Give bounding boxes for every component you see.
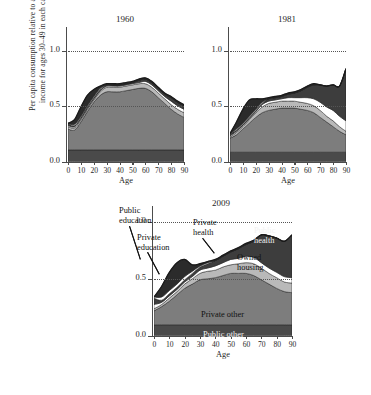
- panel-2009-xtick-50: 50: [224, 340, 238, 349]
- panel-1960-xtickmark-10: [81, 162, 82, 165]
- panel-1981-xtick-20: 20: [249, 166, 263, 175]
- panel-1981-xtick-10: 10: [236, 166, 250, 175]
- panel-1981-xtickmark-20: [256, 162, 257, 165]
- panel-2009-x-axis-title: Age: [154, 350, 292, 359]
- panel-1960-area-chart: [68, 28, 184, 162]
- panel-1960-xtick-20: 20: [87, 166, 101, 175]
- panel-1960-gridline-1.0: [68, 51, 184, 52]
- area-public-other: [230, 152, 346, 161]
- panel-2009-gridline-0.5: [154, 279, 292, 280]
- panel-1960-x-spine: [66, 162, 184, 163]
- area-public-other: [68, 150, 184, 162]
- panel-2009-xtickmark-90: [292, 336, 293, 339]
- panel-1981-xtickmark-80: [333, 162, 334, 165]
- panel-1960-xtickmark-60: [145, 162, 146, 165]
- panel-2009-xtick-30: 30: [194, 340, 208, 349]
- panel-1981-xtickmark-30: [269, 162, 270, 165]
- panel-1981-xtickmark-0: [230, 162, 231, 165]
- panel-1981-xtickmark-60: [307, 162, 308, 165]
- panel-1981: 1981 1.0 0.5 0.0 0 10 20 30 40 50 60 70 …: [222, 14, 352, 189]
- panel-1960-xtickmark-20: [94, 162, 95, 165]
- panel-2009-xtickmark-80: [277, 336, 278, 339]
- panel-1981-xtickmark-70: [320, 162, 321, 165]
- panel-1960-xtick-30: 30: [100, 166, 114, 175]
- panel-1981-xtick-80: 80: [327, 166, 341, 175]
- panel-1981-xtickmark-40: [282, 162, 283, 165]
- panel-1981-gridline-0.5: [230, 106, 346, 107]
- panel-1960-xtickmark-50: [132, 162, 133, 165]
- panel-1960-xtickmark-90: [184, 162, 185, 165]
- panel-1981-xtick-0: 0: [224, 166, 238, 175]
- panel-1981-x-spine: [228, 162, 346, 163]
- panel-1960-x-axis-title: Age: [68, 176, 184, 185]
- panel-1960-xtick-90: 90: [178, 166, 192, 175]
- panel-1960-xtick-10: 10: [74, 166, 88, 175]
- panel-1960-gridline-0.5: [68, 106, 184, 107]
- panel-1960-xtick-0: 0: [62, 166, 76, 175]
- panel-1960-xtickmark-40: [120, 162, 121, 165]
- annotation-public-health: Public health: [254, 226, 275, 245]
- panel-2009-xtickmark-0: [154, 336, 155, 339]
- panel-2009-xtickmark-10: [169, 336, 170, 339]
- panel-1981-x-axis-title: Age: [230, 176, 346, 185]
- panel-2009-gridline-1.0: [154, 222, 292, 223]
- panel-2009-xtick-10: 10: [163, 340, 177, 349]
- panel-2009-xtick-0: 0: [148, 340, 162, 349]
- panel-1960-ytick-0.5: 0.5: [34, 100, 60, 109]
- panel-2009-xtickmark-70: [261, 336, 262, 339]
- panel-1981-xtickmark-50: [294, 162, 295, 165]
- panel-1960-xtickmark-80: [171, 162, 172, 165]
- panel-1981-gridline-1.0: [230, 51, 346, 52]
- panel-2009-xtickmark-30: [200, 336, 201, 339]
- panel-1960-plot: [68, 28, 184, 162]
- annotation-public-education: Public education: [119, 206, 152, 225]
- panel-2009-ytick-0.0: 0.0: [120, 330, 146, 339]
- panel-1960-xtickmark-70: [158, 162, 159, 165]
- panel-1960-title: 1960: [60, 14, 190, 24]
- panel-1981-ytick-1.0: 1.0: [196, 45, 222, 54]
- annotation-public-other: Public other: [203, 330, 244, 340]
- panel-1960-xtick-50: 50: [126, 166, 140, 175]
- annotation-owned-housing: Owned housing: [237, 253, 264, 272]
- panel-1981-title: 1981: [222, 14, 352, 24]
- panel-1981-xtick-30: 30: [262, 166, 276, 175]
- panel-1960-ytick-1.0: 1.0: [34, 45, 60, 54]
- panel-1981-xtick-70: 70: [314, 166, 328, 175]
- panel-2009-ytick-0.5: 0.5: [120, 273, 146, 282]
- panel-1981-xtick-90: 90: [340, 166, 354, 175]
- annotation-private-health: Private health: [193, 218, 217, 237]
- panel-1981-ytick-0.0: 0.0: [196, 156, 222, 165]
- panel-1960-xtick-80: 80: [165, 166, 179, 175]
- panel-2009-xtickmark-60: [246, 336, 247, 339]
- panel-2009-xtick-20: 20: [178, 340, 192, 349]
- panel-1960-ytick-0.0: 0.0: [34, 156, 60, 165]
- panel-1981-xtickmark-90: [346, 162, 347, 165]
- panel-2009-xtickmark-20: [185, 336, 186, 339]
- annotation-private-other: Private other: [201, 310, 244, 320]
- panel-1960-xtick-60: 60: [139, 166, 153, 175]
- panel-1960-xtickmark-0: [68, 162, 69, 165]
- panel-2009-xtick-80: 80: [270, 340, 284, 349]
- panel-1981-ytick-0.5: 0.5: [196, 100, 222, 109]
- panel-2009-xtick-90: 90: [286, 340, 300, 349]
- annotation-private-education: Private education: [137, 233, 170, 252]
- panel-1960: 1960 1.0 0.5 0.0 0 10 20 30 40 50: [60, 14, 190, 189]
- panel-1981-xtick-50: 50: [288, 166, 302, 175]
- panel-1960-xtickmark-30: [107, 162, 108, 165]
- panel-2009: 2009 1.0 0.5 0.0 0 10 20 30 40 50 60 70: [146, 198, 306, 378]
- panel-1981-xtick-60: 60: [301, 166, 315, 175]
- panel-1960-xtick-70: 70: [152, 166, 166, 175]
- panel-2009-xtick-40: 40: [209, 340, 223, 349]
- panel-2009-xtick-60: 60: [240, 340, 254, 349]
- panel-1981-area-chart: [230, 28, 346, 162]
- figure-root: Per capita consumption relative to avera…: [0, 0, 371, 395]
- panel-1981-plot: [230, 28, 346, 162]
- panel-2009-xtick-70: 70: [255, 340, 269, 349]
- panel-1981-xtickmark-10: [243, 162, 244, 165]
